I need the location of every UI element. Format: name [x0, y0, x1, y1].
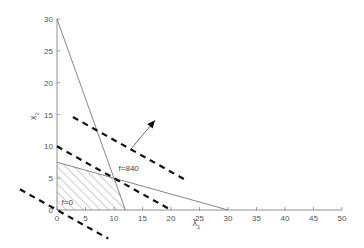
x-tick-label: 35 — [252, 214, 261, 223]
y-tick-label: 30 — [44, 15, 53, 24]
y-tick-label: 20 — [44, 79, 53, 88]
y-axis-label: x2 — [28, 111, 40, 120]
y-tick-label: 10 — [44, 142, 53, 151]
x-tick-label: 20 — [167, 214, 176, 223]
gradient-arrow — [130, 120, 155, 150]
y-tick-label: 15 — [44, 111, 53, 120]
axis-labels: λ1x2 — [28, 111, 201, 230]
x-tick-label: 15 — [138, 214, 147, 223]
x-tick-label: 30 — [224, 214, 233, 223]
annotation-f-0: f=0 — [62, 198, 74, 207]
x-axis-label-subscript: 1 — [197, 224, 201, 230]
y-tick-label: 5 — [49, 174, 54, 183]
x-tick-label: 10 — [110, 214, 119, 223]
x-tick-label: 0 — [55, 214, 60, 223]
annotation-f-840: f=840 — [119, 164, 140, 173]
x-tick-label: 5 — [83, 214, 88, 223]
x-tick-label: 50 — [338, 214, 347, 223]
chart: 05101520253035404550051015202530 f=840f=… — [0, 0, 364, 248]
arrow-head-icon — [147, 120, 155, 128]
y-tick-label: 25 — [44, 47, 53, 56]
y-axis-label-subscript: 2 — [34, 111, 40, 115]
x-tick-label: 45 — [309, 214, 318, 223]
x-tick-label: 40 — [281, 214, 290, 223]
